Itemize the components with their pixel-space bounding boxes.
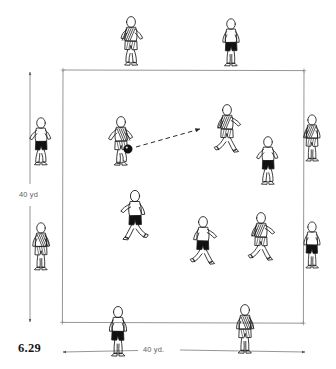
perimeter-player-top-left (121, 17, 143, 66)
pass-arrow (136, 129, 200, 147)
horizontal-dimension-label: 40 yd. (143, 345, 164, 354)
grid-boundary (60, 68, 306, 326)
diagram-canvas (0, 0, 336, 369)
players-layer (30, 17, 320, 356)
perimeter-player-right-upper (303, 115, 320, 161)
jersey-stripes (117, 128, 130, 140)
jersey-stripes (218, 116, 231, 128)
inside-player-receiver (214, 105, 240, 153)
dark-shorts (129, 216, 141, 225)
dark-shorts (35, 141, 47, 150)
inside-player-center (121, 190, 148, 240)
perimeter-player-left-lower (33, 223, 50, 270)
pass-direction-arrow (136, 129, 200, 147)
dark-shorts (306, 245, 317, 254)
perimeter-player-bottom-left (109, 306, 126, 356)
ball (124, 145, 132, 153)
jersey-stripes (252, 224, 265, 236)
inside-player-right-runner (248, 213, 274, 261)
dimension-lines (30, 72, 305, 352)
ball-icon (124, 145, 132, 153)
perimeter-player-right-lower (304, 222, 320, 268)
inside-player-center-right (190, 217, 216, 265)
inside-player-passer (109, 117, 133, 166)
perimeter-player-left-upper (30, 118, 51, 165)
perimeter-player-top-right (223, 19, 239, 66)
perimeter-player-bottom-right (237, 305, 254, 354)
dark-shorts (197, 241, 209, 250)
dark-shorts (112, 331, 124, 340)
vertical-dimension-label: 40 yd (19, 190, 38, 199)
dark-shorts (225, 42, 237, 51)
figure-number: 6.29 (18, 341, 41, 356)
dark-shorts (262, 160, 274, 169)
soccer-drill-figure: 6.29 40 yd 40 yd. (0, 0, 336, 369)
inside-player-right-support (257, 137, 278, 185)
